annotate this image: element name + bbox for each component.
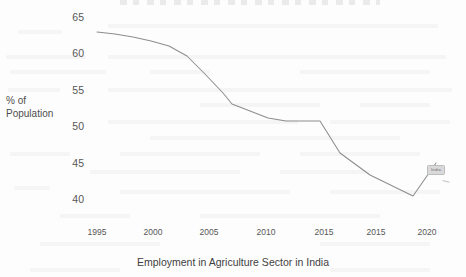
x-tick-label: 2015 [315, 228, 334, 237]
x-tick-label: 2010 [257, 228, 276, 237]
x-tick-label: 2020 [418, 228, 437, 237]
x-axis: 1995 2000 2005 2010 2015 2015 2020 [0, 228, 466, 242]
x-tick-label: 2015 [367, 228, 386, 237]
x-tick-label: 1995 [88, 228, 107, 237]
chart-caption: Employment in Agriculture Sector in Indi… [0, 256, 466, 268]
x-tick-label: 2000 [144, 228, 163, 237]
series-tooltip: India [427, 165, 445, 175]
chart-figure: % of Population 65 60 55 50 45 40 India … [0, 0, 466, 277]
series-line-india [97, 32, 436, 196]
x-tick-label: 2005 [200, 228, 219, 237]
